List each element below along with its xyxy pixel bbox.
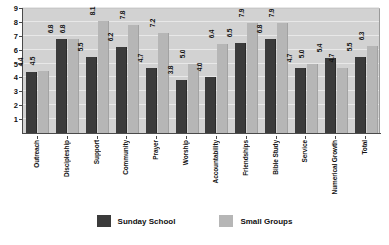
y-axis-tick-label: 5: [0, 60, 18, 69]
bar-value-label-text: 6.8: [59, 24, 66, 32]
bar-small-groups[interactable]: 4.5: [38, 71, 49, 134]
bar-sunday-school[interactable]: 5.5: [355, 57, 366, 133]
bar-value-label: 6.4: [215, 39, 222, 47]
bar-small-groups[interactable]: 4.7: [337, 68, 348, 133]
bar-value-label: 5.5: [353, 51, 360, 59]
bar-small-groups[interactable]: 7.9: [277, 23, 288, 133]
bar-value-label: 6.5: [233, 38, 240, 46]
bar-small-groups[interactable]: 7.9: [247, 23, 258, 133]
y-axis-tick-label: 4: [0, 73, 18, 82]
x-axis-category-label: Support: [93, 140, 107, 164]
bar-value-label-text: 7.9: [268, 9, 275, 17]
x-axis-tick-mark: [365, 136, 366, 139]
bar-sunday-school[interactable]: 4.4: [26, 72, 37, 133]
legend-label: Small Groups: [240, 217, 292, 226]
y-axis-tick-label: 6: [0, 46, 18, 55]
bar-value-label-text: 5.5: [346, 42, 353, 50]
x-axis-tick-mark: [67, 136, 68, 139]
bar-value-label: 4.7: [293, 63, 300, 71]
bar-sunday-school[interactable]: 5.5: [86, 57, 97, 133]
y-axis: 123456789: [0, 0, 20, 245]
bars-layer: 4.44.56.86.85.58.16.27.84.77.23.85.04.06…: [22, 8, 380, 133]
bar-small-groups[interactable]: 6.3: [367, 46, 378, 134]
bar-small-groups[interactable]: 5.0: [188, 64, 199, 133]
bar-group: 4.77.2: [144, 8, 169, 133]
bar-group: 5.56.3: [353, 8, 378, 133]
chart-legend: Sunday SchoolSmall Groups: [0, 215, 389, 227]
bar-sunday-school[interactable]: 3.8: [176, 80, 187, 133]
bar-group: 3.85.0: [174, 8, 199, 133]
bar-small-groups[interactable]: 7.8: [128, 25, 139, 133]
bar-sunday-school[interactable]: 4.0: [205, 77, 216, 133]
x-axis-tick-mark: [246, 136, 247, 139]
bar-value-label: 4.7: [144, 63, 151, 71]
x-axis-tick-mark: [126, 136, 127, 139]
bar-value-label-text: 8.1: [89, 6, 96, 14]
y-axis-tick-label: 2: [0, 101, 18, 110]
y-axis-tick-label: 8: [0, 18, 18, 27]
x-axis-category-label: Outreach: [33, 140, 47, 168]
bar-value-label-text: 7.2: [149, 19, 156, 27]
x-axis-category-label: Total: [361, 140, 375, 155]
x-axis-tick-mark: [276, 136, 277, 139]
bar-value-label: 3.8: [174, 75, 181, 83]
x-axis-tick-mark: [97, 136, 98, 139]
legend-item[interactable]: Small Groups: [219, 215, 292, 227]
bar-sunday-school[interactable]: 6.8: [56, 39, 67, 133]
y-axis-tick-label: 7: [0, 32, 18, 41]
bar-value-label: 6.8: [54, 33, 61, 41]
bar-small-groups[interactable]: 7.2: [158, 33, 169, 133]
x-axis-category-label: Bible Study: [272, 140, 286, 175]
bar-group: 4.06.4: [203, 8, 228, 133]
bar-group: 4.75.0: [293, 8, 318, 133]
bar-value-label: 7.8: [126, 19, 133, 27]
y-axis-tick-label: 9: [0, 4, 18, 13]
bar-value-label: 7.9: [245, 18, 252, 26]
bar-small-groups[interactable]: 6.4: [217, 44, 228, 133]
bar-value-label: 6.8: [66, 33, 73, 41]
bar-sunday-school[interactable]: 6.5: [235, 43, 246, 133]
bar-value-label: 4.7: [335, 63, 342, 71]
legend-swatch-light: [219, 215, 233, 227]
y-axis-tick-label: 1: [0, 115, 18, 124]
bar-value-label-text: 6.3: [358, 31, 365, 39]
bar-value-label-text: 4.7: [286, 54, 293, 62]
x-axis-tick-mark: [216, 136, 217, 139]
bar-group: 6.27.8: [114, 8, 139, 133]
bar-group: 4.44.5: [24, 8, 49, 133]
bar-value-label-text: 6.5: [226, 29, 233, 37]
bar-group: 5.58.1: [84, 8, 109, 133]
x-axis-category-label: Community: [122, 140, 136, 175]
bar-value-label-text: 4.7: [328, 54, 335, 62]
x-axis-tick-mark: [335, 136, 336, 139]
legend-label: Sunday School: [118, 217, 176, 226]
x-axis-line: [22, 133, 381, 134]
bar-value-label-text: 7.8: [119, 10, 126, 18]
bar-group: 5.44.7: [323, 8, 348, 133]
bar-value-label-text: 5.5: [77, 42, 84, 50]
bar-small-groups[interactable]: 6.8: [68, 39, 79, 133]
bar-sunday-school[interactable]: 4.7: [295, 68, 306, 133]
bar-value-label: 4.5: [36, 65, 43, 73]
x-axis-category-label: Worship: [182, 140, 196, 165]
x-axis-category-label: Friendships: [242, 140, 256, 176]
bar-value-label-text: 3.8: [167, 66, 174, 74]
bar-sunday-school[interactable]: 4.7: [146, 68, 157, 133]
bar-value-label-text: 5.0: [179, 49, 186, 57]
bar-small-groups[interactable]: 5.0: [307, 64, 318, 133]
bar-sunday-school[interactable]: 6.8: [265, 39, 276, 133]
bar-value-label-text: 6.2: [107, 33, 114, 41]
legend-swatch-dark: [97, 215, 111, 227]
bar-group: 6.87.9: [263, 8, 288, 133]
bar-value-label: 5.0: [305, 58, 312, 66]
bar-value-label: 6.3: [365, 40, 372, 48]
x-axis-tick-mark: [186, 136, 187, 139]
bar-value-label-text: 6.8: [47, 24, 54, 32]
bar-group: 6.86.8: [54, 8, 79, 133]
bar-value-label: 4.0: [203, 72, 210, 80]
legend-item[interactable]: Sunday School: [97, 215, 176, 227]
bar-sunday-school[interactable]: 6.2: [116, 47, 127, 133]
bar-value-label: 5.0: [186, 58, 193, 66]
x-axis-category-label: Service: [301, 140, 315, 162]
bar-value-label-text: 6.8: [256, 24, 263, 32]
